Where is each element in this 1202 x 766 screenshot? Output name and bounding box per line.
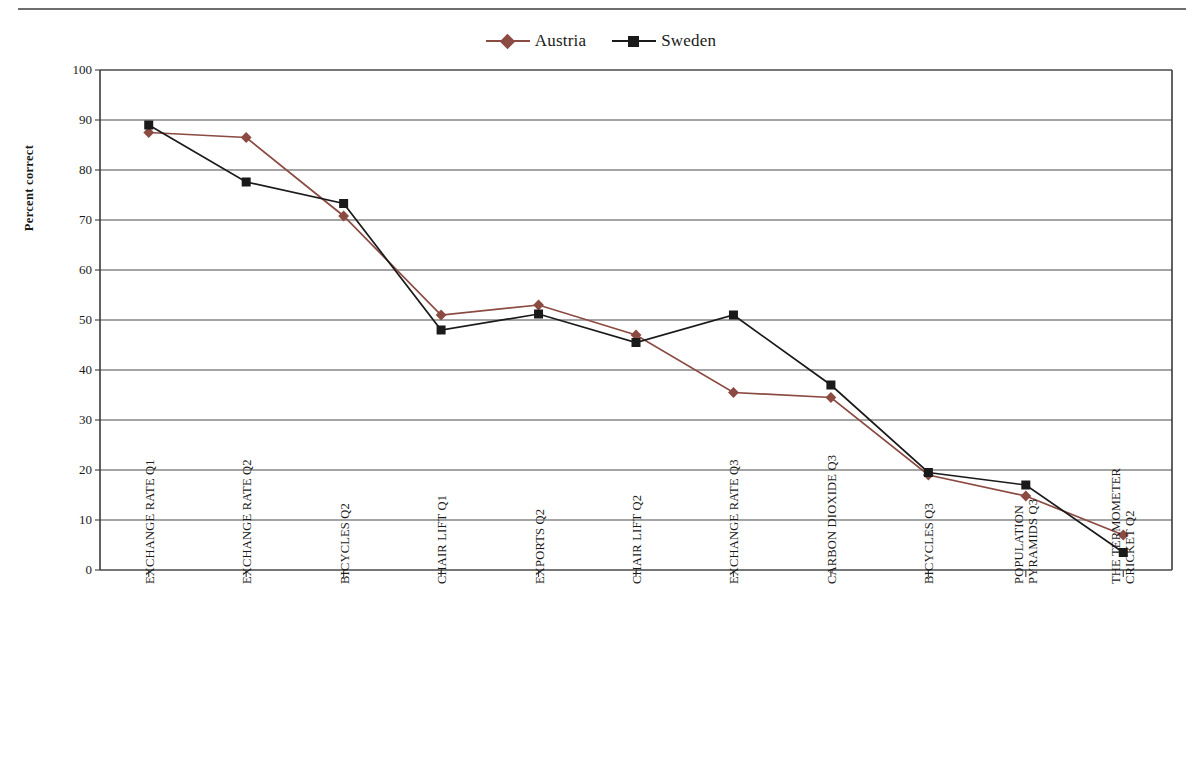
y-tick-label: 30 — [54, 413, 92, 426]
legend-entry-sweden[interactable]: Sweden — [612, 31, 716, 51]
y-tick-label: 50 — [54, 313, 92, 326]
legend-label-sweden: Sweden — [661, 31, 716, 51]
y-tick-label: 90 — [54, 113, 92, 126]
x-tick-label: BICYCLES Q3 — [922, 503, 936, 584]
legend-swatch-austria — [486, 34, 530, 48]
y-tick-label: 20 — [54, 463, 92, 476]
y-tick-label: 10 — [54, 513, 92, 526]
x-tick-label: POPULATIONPYRAMIDS Q3 — [1012, 499, 1040, 584]
x-tick-label: BICYCLES Q2 — [338, 503, 352, 584]
x-tick-label: CHAIR LIFT Q1 — [435, 495, 449, 584]
chart-legend: Austria Sweden — [0, 28, 1202, 54]
legend-label-austria: Austria — [535, 31, 586, 51]
y-tick-label: 60 — [54, 263, 92, 276]
page-top-rule — [18, 8, 1186, 10]
legend-swatch-sweden — [612, 34, 656, 48]
x-tick-label: EXPORTS Q2 — [533, 509, 547, 584]
y-axis-tick-labels: 0102030405060708090100 — [50, 0, 92, 766]
x-tick-label: CHAIR LIFT Q2 — [630, 495, 644, 584]
data-point-marker[interactable] — [144, 121, 153, 130]
data-point-marker[interactable] — [826, 381, 835, 390]
data-point-marker[interactable] — [534, 310, 543, 319]
data-point-marker[interactable] — [729, 311, 738, 320]
data-point-marker[interactable] — [632, 338, 641, 347]
data-point-marker[interactable] — [242, 178, 251, 187]
y-tick-label: 40 — [54, 363, 92, 376]
y-tick-label: 100 — [54, 63, 92, 76]
y-tick-label: 0 — [54, 563, 92, 576]
y-tick-label: 80 — [54, 163, 92, 176]
x-tick-label: CARBON DIOXIDE Q3 — [825, 455, 839, 584]
data-point-marker[interactable] — [437, 326, 446, 335]
x-tick-label: THE TERMOMETERCRICKET Q2 — [1109, 468, 1137, 584]
figure-container: Austria Sweden Percent correct 010203040… — [0, 0, 1202, 766]
chart-plot-area — [0, 0, 1202, 766]
data-point-marker[interactable] — [339, 199, 348, 208]
data-point-marker[interactable] — [1021, 481, 1030, 490]
x-tick-label: EXCHANGE RATE Q3 — [727, 459, 741, 584]
data-point-marker[interactable] — [533, 300, 544, 311]
data-point-marker[interactable] — [728, 387, 739, 398]
x-tick-label: EXCHANGE RATE Q1 — [143, 459, 157, 584]
y-tick-label: 70 — [54, 213, 92, 226]
y-axis-title: Percent correct — [22, 118, 37, 258]
legend-entry-austria[interactable]: Austria — [486, 31, 586, 51]
x-tick-label: EXCHANGE RATE Q2 — [240, 459, 254, 584]
data-point-marker[interactable] — [924, 468, 933, 477]
